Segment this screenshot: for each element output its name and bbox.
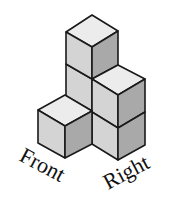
cube-stack-diagram: Front Right: [0, 0, 170, 197]
